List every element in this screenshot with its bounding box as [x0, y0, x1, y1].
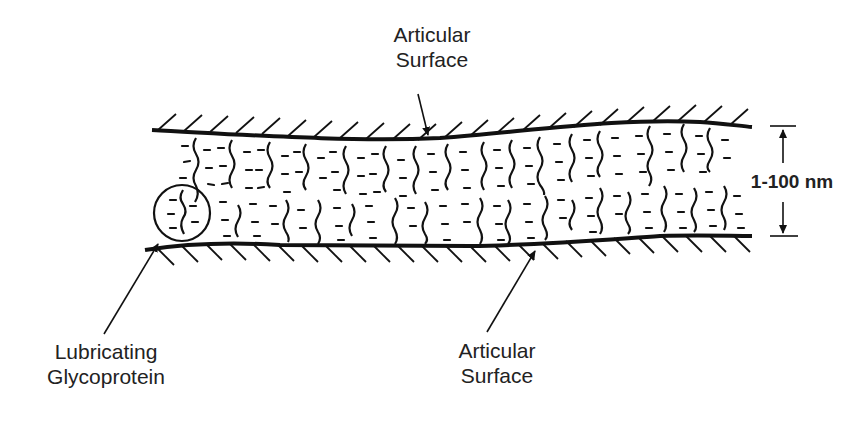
- thickness-label: 1-100 nm: [742, 169, 842, 194]
- bottom-surface-arrow: [487, 251, 535, 332]
- circled-glycoprotein-chain: [181, 190, 186, 234]
- top-surface-arrow: [418, 94, 428, 135]
- bottom-articular-surface-label: Articular Surface: [427, 338, 567, 388]
- lubricating-glycoprotein-label: Lubricating Glycoprotein: [22, 339, 190, 389]
- glycoprotein-chains: [194, 124, 727, 244]
- solvent-dashes: [168, 134, 744, 240]
- bottom-surface-hatching: [158, 236, 750, 265]
- top-articular-surface-label: Articular Surface: [362, 22, 502, 72]
- glycoprotein-arrow: [104, 244, 158, 334]
